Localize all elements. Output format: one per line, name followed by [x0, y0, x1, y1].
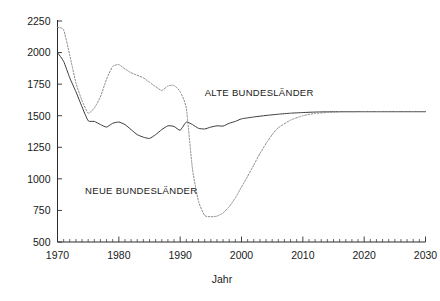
x-tick-label: 2000 — [230, 249, 254, 261]
series-label-alte-bundeslaender: ALTE BUNDESLÄNDER — [205, 87, 314, 98]
y-tick-label: 1250 — [27, 141, 51, 153]
x-tick-label: 1980 — [107, 249, 131, 261]
x-tick-label: 2020 — [352, 249, 376, 261]
x-axis-tick-labels: 1970198019902000201020202030 — [46, 249, 438, 261]
series-label-neue-bundeslaender: NEUE BUNDESLÄNDER — [85, 185, 197, 196]
y-tick-label: 2250 — [27, 15, 51, 27]
axis-lines — [58, 20, 426, 242]
x-tick-label: 1990 — [168, 249, 192, 261]
y-tick-label: 500 — [33, 236, 51, 248]
line-chart: 500750100012501500175020002250 197019801… — [0, 0, 440, 301]
y-tick-label: 1500 — [27, 110, 51, 122]
y-axis-tick-labels: 500750100012501500175020002250 — [27, 15, 51, 248]
x-axis-title: Jahr — [212, 273, 233, 285]
chart-container: 500750100012501500175020002250 197019801… — [0, 0, 440, 301]
y-tick-label: 750 — [33, 204, 51, 216]
y-tick-label: 1000 — [27, 173, 51, 185]
y-tick-label: 2000 — [27, 46, 51, 58]
x-tick-label: 2030 — [414, 249, 438, 261]
y-tick-label: 1750 — [27, 78, 51, 90]
x-tick-label: 1970 — [46, 249, 70, 261]
x-tick-label: 2010 — [291, 249, 315, 261]
